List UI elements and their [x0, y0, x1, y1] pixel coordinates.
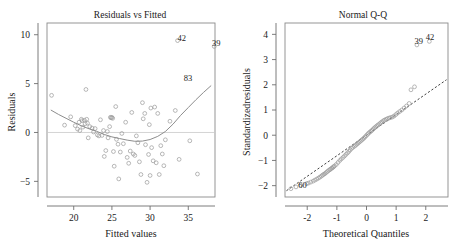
left-scatter-points: [50, 39, 216, 185]
x-tick-label: -1: [333, 213, 341, 223]
outlier-label: 42: [426, 32, 435, 42]
y-tick-label: 2: [263, 80, 268, 90]
data-point: [157, 173, 161, 177]
x-tick-label: 35: [184, 213, 194, 223]
data-point: [99, 118, 103, 122]
data-point: [102, 155, 106, 159]
data-point: [407, 102, 411, 106]
data-point: [196, 172, 200, 176]
data-point: [114, 105, 118, 109]
data-point: [86, 121, 90, 125]
x-tick-label: 0: [364, 213, 369, 223]
x-tick-label: 30: [145, 213, 155, 223]
data-point: [150, 146, 154, 150]
data-point: [168, 119, 172, 123]
data-point: [188, 139, 192, 143]
y-tick-label: 5: [25, 79, 30, 89]
data-point: [124, 120, 128, 124]
data-point: [177, 157, 181, 161]
y-tick-label: −5: [20, 177, 30, 187]
data-point: [63, 123, 67, 127]
data-point: [144, 143, 148, 147]
data-point: [294, 185, 298, 189]
data-point: [73, 124, 77, 128]
data-point: [84, 88, 88, 92]
data-point: [121, 142, 125, 146]
y-tick-label: 10: [21, 30, 31, 40]
outlier-label: 42: [178, 33, 187, 43]
left-plot-frame: [47, 23, 215, 197]
x-tick-label: 25: [107, 213, 117, 223]
data-point: [309, 180, 313, 184]
data-point: [85, 117, 89, 121]
left-plot-title: Residuals vs Fitted: [94, 10, 167, 20]
left-y-axis-label: Residuals: [6, 92, 17, 131]
y-tick-label: 1: [263, 105, 268, 115]
right-scatter-points: [289, 40, 431, 191]
left-point-labels: 423983: [178, 33, 221, 83]
data-point: [69, 115, 73, 119]
data-point: [163, 138, 167, 142]
y-tick-label: 4: [263, 30, 268, 40]
data-point: [149, 106, 153, 110]
data-point: [117, 177, 121, 181]
data-point: [162, 164, 166, 168]
data-point: [147, 153, 151, 157]
x-tick-label: 20: [69, 213, 79, 223]
x-tick-label: 2: [423, 213, 428, 223]
right-point-labels: 394260: [298, 32, 434, 190]
data-point: [104, 149, 108, 153]
left-x-axis-ticks: 20253035: [47, 206, 215, 223]
data-point: [413, 85, 417, 89]
data-point: [112, 164, 116, 168]
data-point: [116, 142, 120, 146]
data-point: [134, 134, 138, 138]
y-tick-label: 0: [25, 128, 30, 138]
right-x-axis-label: Theoretical Quantiles: [323, 228, 409, 239]
data-point: [156, 112, 160, 116]
left-y-axis-ticks: −50510: [20, 23, 38, 197]
data-point: [145, 180, 149, 184]
residuals-vs-fitted-panel: Residuals vs Fitted 20253035 −50510 4239…: [0, 0, 233, 247]
data-point: [160, 152, 164, 156]
data-point: [108, 125, 112, 129]
data-point: [153, 105, 157, 109]
y-tick-label: 0: [263, 131, 268, 141]
normal-qq-panel: Normal Q-Q -2-1012 −2−101234 394260 Theo…: [233, 0, 466, 247]
right-plot-frame: [285, 23, 448, 197]
data-point: [409, 88, 413, 92]
y-tick-label: −2: [258, 181, 268, 191]
data-point: [138, 160, 142, 164]
x-tick-label: 1: [394, 213, 399, 223]
left-x-axis-label: Fitted values: [105, 228, 156, 239]
left-lowess-curve: [51, 86, 211, 142]
data-point: [141, 101, 145, 105]
data-point: [118, 150, 122, 154]
right-x-axis-ticks: -2-1012: [285, 206, 448, 223]
data-point: [128, 149, 132, 153]
diagnostic-plots-figure: Residuals vs Fitted 20253035 −50510 4239…: [0, 0, 466, 247]
data-point: [147, 123, 151, 127]
data-point: [148, 174, 152, 178]
data-point: [154, 161, 158, 165]
y-tick-label: 3: [263, 55, 268, 65]
normal-qq-svg: Normal Q-Q -2-1012 −2−101234 394260 Theo…: [233, 0, 466, 247]
data-point: [125, 156, 129, 160]
y-tick-label: −1: [258, 156, 268, 166]
data-point: [139, 173, 143, 177]
data-point: [143, 112, 147, 116]
x-tick-label: -2: [303, 213, 311, 223]
right-y-axis-label: Standardizedresiduals: [241, 68, 252, 156]
right-y-axis-ticks: −2−101234: [258, 23, 276, 197]
data-point: [173, 109, 177, 113]
outlier-label: 39: [212, 38, 221, 48]
data-point: [159, 144, 163, 148]
data-point: [50, 93, 54, 97]
qq-reference-line: [286, 80, 446, 191]
right-plot-title: Normal Q-Q: [339, 10, 387, 20]
data-point: [127, 161, 131, 165]
data-point: [112, 150, 116, 154]
data-point: [130, 111, 134, 115]
data-point: [141, 117, 145, 121]
residuals-vs-fitted-svg: Residuals vs Fitted 20253035 −50510 4239…: [0, 0, 233, 247]
